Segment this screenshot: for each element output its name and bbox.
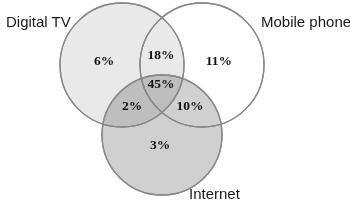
label-digital-tv: Digital TV [6,13,71,30]
value-digital-tv-only: 6% [94,53,114,68]
value-all-three: 45% [148,76,175,91]
value-mobile-phone-and-internet: 10% [177,98,204,113]
circles [60,3,264,195]
label-mobile-phone: Mobile phone [261,13,350,30]
value-mobile-phone-only: 11% [206,53,232,68]
label-internet: Internet [189,185,241,202]
value-internet-only: 3% [150,137,170,152]
venn-diagram: Digital TV Mobile phone Internet 6% 11% … [0,0,350,204]
value-digital-tv-and-internet: 2% [122,98,142,113]
value-digital-tv-and-mobile-phone: 18% [148,47,175,62]
